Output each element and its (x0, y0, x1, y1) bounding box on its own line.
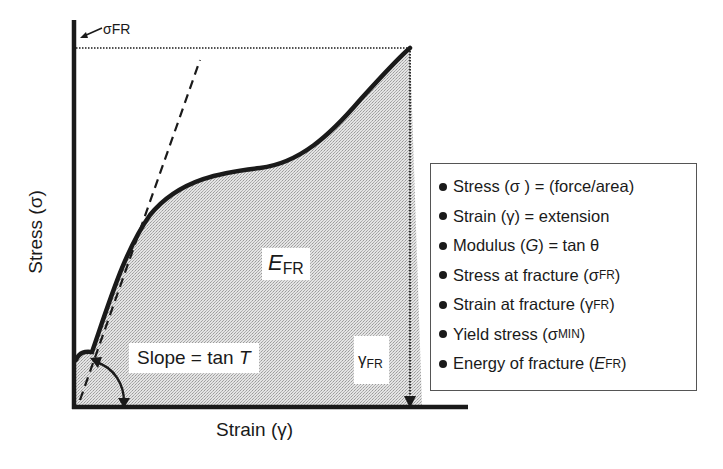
legend-item-strain-at-fracture: Strain at fracture (γFR) (439, 290, 696, 320)
legend-text: ) (615, 261, 621, 290)
bullet-icon (439, 301, 447, 309)
legend-text: Energy of fracture ( (453, 349, 594, 378)
legend-box: Stress (σ ) = (force/area) Strain (γ) = … (430, 163, 697, 391)
bullet-icon (439, 330, 447, 338)
gamma-fr-main: γ (358, 350, 367, 369)
legend-item-yield-stress: Yield stress (σMIN) (439, 320, 696, 350)
gamma-fr-sub: FR (367, 357, 383, 371)
legend-text: ) (580, 320, 586, 349)
efr-sub: FR (283, 260, 304, 277)
legend-item-stress: Stress (σ ) = (force/area) (439, 172, 696, 202)
bullet-icon (439, 242, 447, 250)
slope-text: Slope = tan (137, 347, 239, 368)
sigma-fr-label: σFR (103, 21, 130, 37)
energy-of-fracture-label: EFR (262, 248, 310, 280)
legend-text: Strain at fracture (γ (453, 290, 593, 319)
legend-text: Yield stress (σ (453, 320, 558, 349)
bullet-icon (439, 183, 447, 191)
x-axis-label: Strain (γ) (216, 419, 293, 441)
sigma-fr-arrowhead (80, 32, 88, 38)
bullet-icon (439, 212, 447, 220)
legend-item-stress-at-fracture: Stress at fracture (σFR) (439, 261, 696, 291)
legend-italic: G (525, 231, 538, 260)
slope-italic: T (239, 347, 251, 368)
slope-label: Slope = tan T (129, 343, 259, 373)
legend-text: ) (621, 349, 627, 378)
bullet-icon (439, 271, 447, 279)
legend-text: Strain (γ) = extension (453, 202, 609, 231)
bullet-icon (439, 360, 447, 368)
legend-text: Stress (σ ) = (force/area) (453, 172, 634, 201)
efr-main: E (268, 250, 283, 275)
legend-item-modulus: Modulus (G) = tan θ (439, 231, 696, 261)
legend-text: Modulus ( (453, 231, 525, 260)
legend-text: ) = tan θ (538, 231, 599, 260)
legend-text: ) (609, 290, 615, 319)
legend-item-energy-of-fracture: Energy of fracture (EFR) (439, 349, 696, 379)
legend-item-strain: Strain (γ) = extension (439, 202, 696, 232)
y-axis-label: Stress (σ) (25, 190, 47, 274)
gamma-fr-label: γFR (354, 336, 389, 384)
legend-text: Stress at fracture (σ (453, 261, 599, 290)
legend-italic: E (594, 349, 605, 378)
